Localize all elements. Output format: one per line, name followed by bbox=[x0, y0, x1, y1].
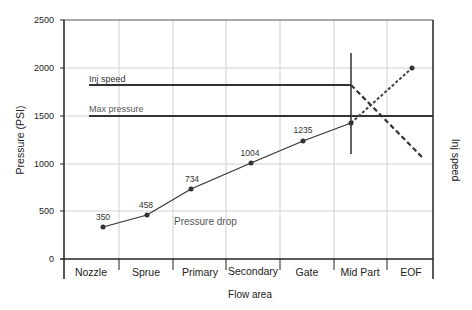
point-label: 458 bbox=[139, 200, 153, 210]
point-label: 1004 bbox=[241, 148, 260, 158]
y-axis-title: Pressure (PSI) bbox=[14, 106, 26, 175]
pressure-chart: 2500 2000 1500 1000 500 0 Nozzle Sprue P… bbox=[0, 0, 472, 310]
x-category-label: Primary bbox=[182, 266, 219, 278]
inj-speed-label: Inj speed bbox=[89, 74, 126, 84]
y-tick-label: 0 bbox=[49, 254, 54, 264]
point-label: 734 bbox=[185, 174, 199, 184]
x-category-label: Gate bbox=[296, 266, 319, 278]
y-tick-label: 2000 bbox=[34, 63, 54, 73]
y2-axis-title: Inj speed bbox=[450, 139, 462, 182]
x-category-label: Mid Part bbox=[340, 266, 379, 278]
pressure-drop-label: Pressure drop bbox=[174, 216, 237, 227]
x-category-label: Sprue bbox=[132, 266, 160, 278]
x-category-label: EOF bbox=[400, 266, 422, 278]
x-category-label: Nozzle bbox=[75, 266, 107, 278]
point-label: 350 bbox=[96, 212, 110, 222]
point-label: 1235 bbox=[294, 125, 313, 135]
y-tick-label: 1500 bbox=[34, 111, 54, 121]
x-axis-title: Flow area bbox=[228, 289, 272, 300]
y-tick-label: 500 bbox=[39, 206, 54, 216]
x-category-label: Secondary bbox=[228, 265, 279, 277]
chart-container: 2500 2000 1500 1000 500 0 Nozzle Sprue P… bbox=[0, 0, 472, 310]
y-tick-label: 2500 bbox=[34, 15, 54, 25]
max-pressure-label: Max pressure bbox=[89, 104, 144, 114]
y-tick-label: 1000 bbox=[34, 159, 54, 169]
